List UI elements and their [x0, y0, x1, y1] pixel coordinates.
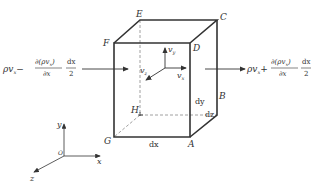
vertex-a: A: [187, 139, 195, 149]
dimension-dy: dy: [195, 97, 205, 106]
axis-label-z: z: [29, 174, 35, 183]
vertex-c: C: [220, 12, 227, 22]
vertex-h: H: [130, 105, 139, 115]
svg-text:∂x: ∂x: [279, 70, 287, 78]
svg-text:∂(ρvx): ∂(ρvx): [271, 58, 291, 67]
svg-text:2: 2: [304, 70, 308, 78]
axis-origin: O: [58, 149, 63, 156]
svg-text:vz: vz: [140, 66, 148, 76]
svg-text:2: 2: [69, 70, 73, 78]
coordinate-axes: [34, 124, 100, 172]
outflow-expression: ρvx+ ∂(ρvx) ∂x dx 2: [246, 58, 311, 78]
inflow-expression: ρvx− ∂(ρvx) ∂x dx 2: [2, 58, 76, 78]
axis-label-x: x: [97, 157, 102, 166]
svg-text:vy: vy: [168, 45, 176, 56]
svg-text:ρvx−: ρvx−: [2, 64, 24, 75]
dimension-dx: dx: [149, 140, 159, 149]
svg-text:∂x: ∂x: [43, 70, 51, 78]
svg-text:vx: vx: [177, 71, 185, 81]
svg-text:ρvx+: ρvx+: [246, 64, 268, 75]
vertex-d: D: [192, 43, 200, 53]
vertex-b: B: [218, 91, 226, 101]
vertex-e: E: [135, 9, 143, 19]
svg-text:∂(ρvx): ∂(ρvx): [35, 58, 55, 67]
vertex-g: G: [104, 136, 111, 146]
vertex-f: F: [102, 38, 110, 48]
svg-text:dx: dx: [302, 58, 310, 66]
control-volume-figure: E C F D H B G A dx dy dz vy vx vz ρvx− ∂…: [0, 0, 319, 185]
cube-edges: [114, 20, 217, 137]
svg-text:dx: dx: [67, 58, 75, 66]
dimension-dz: dz: [205, 110, 214, 119]
axis-label-y: y: [56, 120, 62, 129]
hidden-edges: [114, 20, 217, 137]
